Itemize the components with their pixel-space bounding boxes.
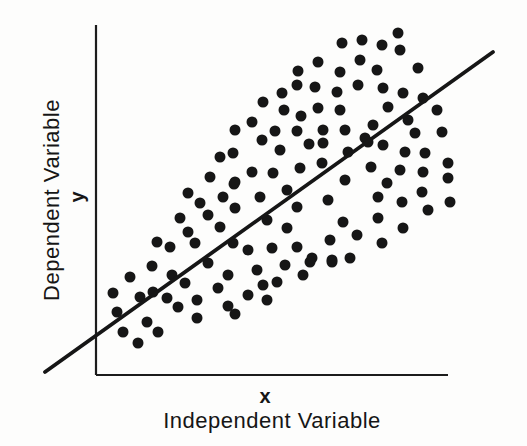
scatter-point <box>215 222 226 233</box>
scatter-point <box>443 173 454 184</box>
scatter-point <box>142 317 153 328</box>
scatter-point <box>318 125 329 136</box>
scatter-point <box>230 203 241 214</box>
x-axis-title: Independent Variable <box>163 408 381 433</box>
scatter-point <box>205 172 216 183</box>
scatter-point <box>270 126 281 137</box>
scatter-point <box>295 163 306 174</box>
scatter-point <box>377 40 388 51</box>
scatter-point <box>340 125 351 136</box>
scatter-point <box>437 127 448 138</box>
scatter-point <box>275 145 286 156</box>
scatter-plot-figure: Dependent Variable y x Independent Varia… <box>0 0 527 446</box>
scatter-point <box>373 213 384 224</box>
scatter-point <box>230 309 241 320</box>
scatter-point <box>108 288 119 299</box>
scatter-point <box>125 272 136 283</box>
scatter-point <box>292 202 303 213</box>
scatter-point <box>230 177 241 188</box>
scatter-point <box>257 135 268 146</box>
scatter-point <box>262 295 273 306</box>
scatter-point <box>398 223 409 234</box>
scatter-point <box>413 63 424 74</box>
scatter-point <box>368 120 379 131</box>
scatter-point <box>118 327 129 338</box>
scatter-point <box>258 97 269 108</box>
scatter-point <box>395 165 406 176</box>
scatter-point <box>372 65 383 76</box>
scatter-point <box>192 295 203 306</box>
scatter-point <box>267 243 278 254</box>
scatter-point <box>215 152 226 163</box>
scatter-point <box>180 278 191 289</box>
scatter-point <box>327 257 338 268</box>
scatter-point <box>373 192 384 203</box>
scatter-point <box>345 253 356 264</box>
scatter-point <box>378 83 389 94</box>
scatter-point <box>398 88 409 99</box>
scatter-point <box>175 213 186 224</box>
scatter-point <box>243 290 254 301</box>
scatter-point <box>377 238 388 249</box>
scatter-point <box>383 102 394 113</box>
scatter-points <box>108 28 456 349</box>
scatter-point <box>443 158 454 169</box>
scatter-point <box>357 35 368 46</box>
scatter-point <box>213 283 224 294</box>
scatter-point <box>292 242 303 253</box>
scatter-point <box>162 293 173 304</box>
y-axis-title: Dependent Variable <box>39 99 64 301</box>
scatter-point <box>192 313 203 324</box>
scatter-point <box>332 87 343 98</box>
scatter-point <box>292 80 303 91</box>
scatter-point <box>313 57 324 68</box>
scatter-point <box>352 230 363 241</box>
scatter-point <box>152 237 163 248</box>
scatter-point <box>228 148 239 159</box>
scatter-point <box>393 28 404 39</box>
scatter-point <box>400 147 411 158</box>
scatter-point <box>355 55 366 66</box>
scatter-point <box>313 103 324 114</box>
scatter-point <box>338 217 349 228</box>
scatter-point <box>432 105 443 116</box>
scatter-point <box>410 128 421 139</box>
scatter-point <box>292 126 303 137</box>
scatter-point <box>203 210 214 221</box>
scatter-point <box>397 197 408 208</box>
scatter-point <box>173 302 184 313</box>
scatter-point <box>335 67 346 78</box>
scatter-point <box>325 235 336 246</box>
scatter-point <box>223 270 234 281</box>
scatter-point <box>282 223 293 234</box>
scatter-point <box>183 227 194 238</box>
x-axis-symbol: x <box>259 385 270 407</box>
scatter-point <box>378 140 389 151</box>
scatter-point <box>318 138 329 149</box>
scatter-point <box>293 66 304 77</box>
scatter-point <box>366 162 377 173</box>
scatter-point <box>147 261 158 272</box>
scatter-point <box>296 111 307 122</box>
scatter-point <box>272 277 283 288</box>
scatter-point <box>382 178 393 189</box>
scatter-point <box>304 139 315 150</box>
scatter-point <box>280 260 291 271</box>
scatter-point <box>282 185 293 196</box>
scatter-point <box>298 270 309 281</box>
scatter-point <box>153 327 164 338</box>
scatter-point <box>195 198 206 209</box>
scatter-point <box>190 238 201 249</box>
scatter-point <box>243 245 254 256</box>
scatter-point <box>277 88 288 99</box>
scatter-point <box>247 117 258 128</box>
scatter-point <box>165 242 176 253</box>
scatter-point <box>353 80 364 91</box>
scatter-point <box>268 168 279 179</box>
scatter-point <box>395 45 406 56</box>
plot-area: Dependent Variable y x Independent Varia… <box>0 0 527 446</box>
scatter-point <box>258 280 269 291</box>
scatter-point <box>323 195 334 206</box>
scatter-point <box>340 175 351 186</box>
scatter-point <box>218 192 229 203</box>
